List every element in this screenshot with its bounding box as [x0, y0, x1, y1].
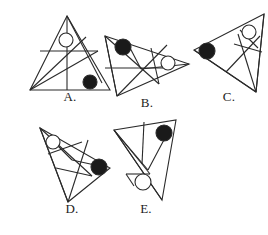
figure-c-label: C.	[186, 90, 268, 104]
figure-e-inner-line-1	[114, 130, 162, 200]
figure-e-inner-line-4	[142, 122, 144, 164]
figure-c-open-circle-1	[242, 25, 256, 39]
figure-c-filled-circle-2	[199, 43, 215, 59]
figure-c-inner-line-3	[226, 36, 260, 72]
figure-b-drawing	[97, 12, 197, 104]
figure-e-inner-line-5	[114, 130, 142, 164]
figure-d-open-circle-1	[46, 135, 60, 149]
figure-e-inner-line-8	[126, 174, 134, 186]
figure-c-drawing	[186, 4, 268, 100]
figure-c: C.	[186, 4, 268, 100]
figure-b-filled-circle-1	[115, 39, 131, 55]
figure-b-open-circle-2	[161, 56, 175, 70]
figure-a-filled-circle-2	[83, 75, 97, 89]
figure-e-label: E.	[104, 202, 188, 216]
figure-a-inner-line-3	[30, 37, 86, 90]
figure-e-open-circle-2	[135, 174, 151, 190]
figure-e-drawing	[104, 108, 188, 210]
figure-sheet: A.B.C.D.E.	[0, 0, 268, 235]
figure-c-inner-line-1	[256, 14, 264, 92]
figure-e: E.	[104, 108, 188, 210]
figure-a-open-circle-1	[59, 33, 73, 47]
figure-b: B.	[97, 12, 197, 104]
figure-e-filled-circle-1	[156, 125, 172, 141]
figure-d-inner-line-7	[56, 168, 92, 176]
